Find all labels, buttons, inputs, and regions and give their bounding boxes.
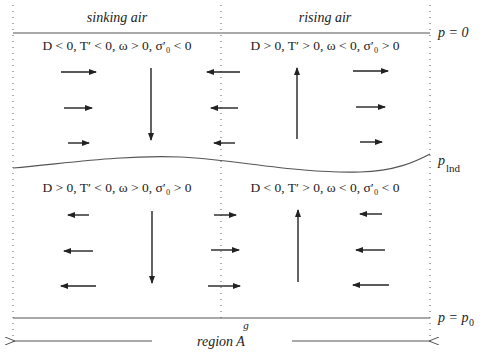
sinking-air-title: sinking air	[87, 10, 148, 25]
rising-air-title: rising air	[299, 10, 352, 25]
surface-pressure-subscript: 0	[469, 317, 474, 328]
upper-right-conditions: D > 0, T′ > 0, ω < 0, σ′₀ > 0	[250, 38, 399, 53]
atmospheric-circulation-diagram: sinking air rising air D < 0, T′ < 0, ω …	[0, 0, 481, 357]
upper-left-arrows	[61, 68, 240, 143]
lower-right-arrows	[298, 210, 389, 285]
lower-left-conditions: D > 0, T′ < 0, ω > 0, σ′₀ > 0	[42, 180, 191, 195]
lnd-pressure-subscript: lnd	[446, 162, 461, 174]
lnd-pressure-label: p	[437, 153, 445, 168]
surface-pressure-label: p = p	[437, 310, 468, 325]
upper-right-arrows	[297, 68, 388, 142]
lower-right-conditions: D < 0, T′ > 0, ω < 0, σ′₀ < 0	[250, 180, 399, 195]
g-label: g	[243, 319, 249, 331]
upper-left-conditions: D < 0, T′ < 0, ω > 0, σ′₀ < 0	[42, 38, 191, 53]
top-pressure-label: p = 0	[437, 25, 468, 40]
region-a-label: region A	[197, 334, 245, 349]
level-of-no-divergence-curve	[13, 154, 430, 172]
lower-left-arrows	[61, 211, 240, 286]
